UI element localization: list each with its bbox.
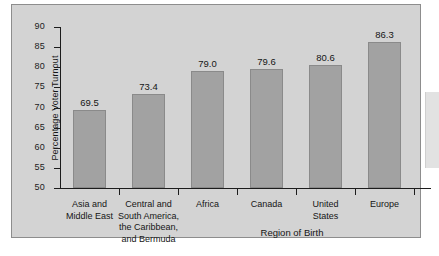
bar-united-states: 80.6 [309,65,342,188]
x-axis-tick [355,189,356,195]
y-axis-line [60,27,61,189]
x-axis-line [60,188,431,189]
bar-value-label: 79.6 [257,56,276,67]
y-axis-tick: 55 [54,168,60,169]
y-axis-tick-label: 90 [35,21,45,31]
y-axis-tick-label: 70 [35,102,45,112]
y-axis-tick: 90 [54,27,60,28]
y-axis-tick-label: 75 [35,81,45,91]
y-axis-tick: 65 [54,128,60,129]
x-axis-tick [296,189,297,195]
bar-asia-and-middle-east: 69.5 [73,110,106,189]
bar-canada: 79.6 [250,69,283,188]
bar-value-label: 79.0 [198,58,217,69]
bar-value-label: 80.6 [316,52,335,63]
y-axis-tick: 70 [54,108,60,109]
x-axis-category-label: Europe [346,199,424,211]
plot-area: Percentage Voter Turnout 90 85 80 75 70 … [60,27,430,188]
y-axis-tick-label: 80 [35,61,45,71]
y-axis-tick-label: 60 [35,142,45,152]
y-axis-tick-label: 50 [35,182,45,192]
y-axis-tick: 60 [54,148,60,149]
bar-central-and-south-america: 73.4 [132,94,165,188]
x-axis-title: Region of Birth [261,227,324,238]
bar-value-label: 86.3 [375,29,394,40]
y-axis-tick: 80 [54,67,60,68]
bar-africa: 79.0 [191,71,224,188]
y-axis-tick: 50 [54,188,60,189]
bar-value-label: 69.5 [80,97,99,108]
y-axis-tick-label: 65 [35,122,45,132]
y-axis-tick: 85 [54,47,60,48]
page-margin-strip [425,92,439,168]
chart-figure-frame: Percentage Voter Turnout 90 85 80 75 70 … [11,4,421,238]
y-axis-tick-label: 55 [35,162,45,172]
bar-value-label: 73.4 [139,81,158,92]
x-axis-tick [414,189,415,195]
x-axis-tick [237,189,238,195]
bar-europe: 86.3 [368,42,401,188]
x-axis-tick [178,189,179,195]
x-axis-tick [119,189,120,195]
y-axis-tick: 75 [54,87,60,88]
y-axis-tick-label: 85 [35,41,45,51]
